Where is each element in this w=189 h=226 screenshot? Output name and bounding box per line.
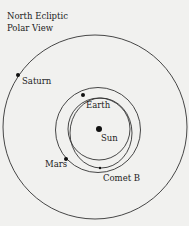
saturn-marker <box>16 73 20 77</box>
mars-label: Mars <box>45 159 67 169</box>
orbit-diagram: Saturn Earth Sun Mars Comet B <box>0 0 189 226</box>
earth-label: Earth <box>86 100 111 110</box>
saturn-label: Saturn <box>22 76 52 86</box>
saturn-orbit <box>3 35 187 219</box>
sun-label: Sun <box>101 133 118 143</box>
earth-marker <box>81 93 85 97</box>
comet-b-label: Comet B <box>103 173 140 183</box>
sun-marker <box>96 126 102 132</box>
comet-b-marker <box>99 167 101 169</box>
